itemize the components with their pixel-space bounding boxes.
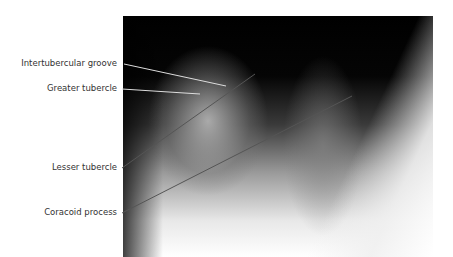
label-lesser-tubercle: Lesser tubercle	[52, 162, 117, 172]
leader-lines	[0, 0, 453, 257]
leader-line-lesser-tubercle	[122, 74, 255, 168]
label-coracoid-process: Coracoid process	[44, 207, 117, 217]
leader-line-greater-tubercle	[122, 89, 200, 94]
leader-line-intertubercular-groove	[124, 64, 226, 86]
label-intertubercular-groove: Intertubercular groove	[21, 58, 117, 68]
leader-line-coracoid-process	[122, 96, 352, 213]
label-greater-tubercle: Greater tubercle	[47, 83, 117, 93]
